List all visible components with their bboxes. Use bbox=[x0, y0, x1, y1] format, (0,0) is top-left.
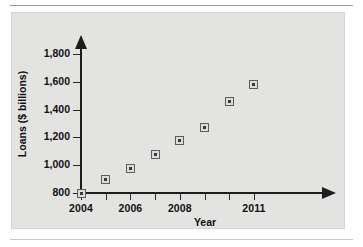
y-tick-1200 bbox=[73, 137, 80, 138]
data-point-2011 bbox=[249, 80, 258, 89]
x-tick-label-2011: 2011 bbox=[234, 202, 274, 214]
y-tick-label-1400: 1,400 bbox=[28, 103, 70, 115]
y-tick-label-1600: 1,600 bbox=[28, 75, 70, 87]
x-tick-label-2008: 2008 bbox=[160, 202, 200, 214]
y-tick-label-800: 800 bbox=[28, 186, 70, 198]
data-point-2007 bbox=[151, 150, 160, 159]
data-point-2006 bbox=[126, 164, 135, 173]
data-point-2004 bbox=[77, 189, 86, 198]
y-tick-1000 bbox=[73, 165, 80, 166]
x-tick-2008 bbox=[180, 194, 181, 200]
data-point-2009 bbox=[200, 123, 209, 132]
chart-figure: 8001,0001,2001,4001,6001,800 20042006200… bbox=[0, 0, 363, 247]
x-tick-label-2006: 2006 bbox=[110, 202, 150, 214]
y-axis-line bbox=[80, 48, 82, 194]
y-tick-label-1200: 1,200 bbox=[28, 130, 70, 142]
x-axis-arrow-icon bbox=[322, 187, 336, 199]
x-tick-2009 bbox=[205, 194, 206, 200]
x-axis-title: Year bbox=[155, 216, 255, 228]
y-tick-1400 bbox=[73, 110, 80, 111]
x-tick-2005 bbox=[106, 194, 107, 200]
y-tick-1600 bbox=[73, 82, 80, 83]
y-tick-label-1800: 1,800 bbox=[28, 47, 70, 59]
data-point-2008 bbox=[175, 136, 184, 145]
x-tick-label-2004: 2004 bbox=[61, 202, 101, 214]
plot-area: 8001,0001,2001,4001,6001,800 20042006200… bbox=[0, 0, 363, 247]
data-point-2010 bbox=[225, 97, 234, 106]
x-tick-2006 bbox=[130, 194, 131, 200]
y-tick-1800 bbox=[73, 54, 80, 55]
y-axis-title: Loans ($ billions) bbox=[16, 54, 28, 174]
x-tick-2007 bbox=[155, 194, 156, 200]
x-tick-2011 bbox=[254, 194, 255, 200]
y-axis-arrow-icon bbox=[75, 35, 87, 49]
y-tick-label-1000: 1,000 bbox=[28, 158, 70, 170]
data-point-2005 bbox=[101, 175, 110, 184]
x-tick-2010 bbox=[229, 194, 230, 200]
x-axis-line bbox=[80, 192, 325, 194]
